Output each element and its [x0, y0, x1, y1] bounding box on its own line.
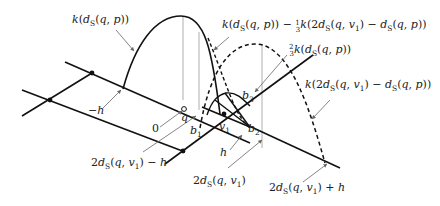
label-curve-two-thirds: 23k(dS(q, p)) — [289, 43, 351, 58]
label-curve-combined: k(dS(q, p)) − 13k(2dS(q, v1) − dS(q, p)) — [222, 18, 426, 34]
label-q: q — [181, 111, 188, 124]
label-neg-h: −h — [88, 104, 104, 117]
label-curve-main: k(dS(q, p)) — [72, 13, 129, 28]
diagram-canvas: k(dS(q, p)) k(dS(q, p)) − 13k(2dS(q, v1)… — [0, 0, 440, 206]
point-v1-dot — [222, 112, 227, 117]
label-curve-reflected: k(2dS(q, v1) − dS(q, p)) — [305, 78, 431, 93]
label-v1: v1 — [219, 120, 230, 135]
diagram-svg: k(dS(q, p)) k(dS(q, p)) − 13k(2dS(q, v1)… — [0, 0, 440, 206]
curve-main — [123, 16, 220, 114]
label-zero: 0 — [152, 122, 159, 135]
labels: k(dS(q, p)) k(dS(q, p)) − 13k(2dS(q, v1)… — [72, 13, 431, 196]
point-dot — [90, 71, 95, 76]
label-b3: b3 — [242, 89, 254, 104]
label-h: h — [220, 146, 227, 159]
label-2d-minus-h: 2dS(q, v1) − h — [91, 156, 167, 171]
point-dot — [181, 149, 186, 154]
label-2d-plus-h: 2dS(q, v1) + h — [269, 181, 345, 196]
label-2d: 2dS(q, v1) — [193, 174, 246, 189]
point-dot — [48, 98, 53, 103]
label-b2: b2 — [248, 122, 260, 137]
curve-combined — [208, 38, 250, 128]
